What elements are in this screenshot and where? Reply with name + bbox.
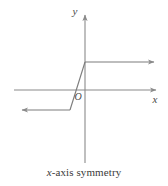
curve-rising-diagonal: [70, 62, 85, 110]
x-axis-label: x: [152, 93, 158, 105]
plot-svg: y x O: [0, 0, 168, 168]
origin-label: O: [74, 91, 81, 102]
y-axis-label: y: [72, 5, 78, 17]
figure-caption: x-axis symmetry: [0, 166, 168, 178]
figure-container: y x O x-axis symmetry: [0, 0, 168, 186]
coordinate-plot: y x O: [0, 0, 168, 168]
caption-rest: -axis symmetry: [52, 166, 122, 178]
